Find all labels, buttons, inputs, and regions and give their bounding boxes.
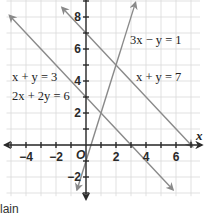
y-tick-label: 8 [74,10,81,24]
x-tick-label: 2 [113,150,120,164]
y-tick-label: 6 [74,42,81,56]
cropped-footer-text: lain [0,202,19,215]
x-tick-label: −4 [19,150,33,164]
x-tick-label: 6 [173,150,180,164]
equation-label-x-plus-y-7: x + y = 7 [136,70,181,84]
equation-label-x-plus-y-3: x + y = 3 [12,70,57,84]
x-tick-label: −2 [49,150,63,164]
x-axis-label: x [195,128,203,143]
y-tick-label: −2 [67,170,81,184]
y-tick-label: 2 [74,106,81,120]
equation-label-2x-plus-2y-6: 2x + 2y = 6 [12,89,70,103]
x-tick-label: 4 [143,150,150,164]
equation-label-3x-minus-y-1: 3x − y = 1 [130,33,182,47]
coordinate-plane: −4−2246−22468 O x 3x − y = 1 x + y = 7 x… [0,0,208,215]
y-tick-label: 4 [74,74,81,88]
origin-label: O [76,148,86,162]
